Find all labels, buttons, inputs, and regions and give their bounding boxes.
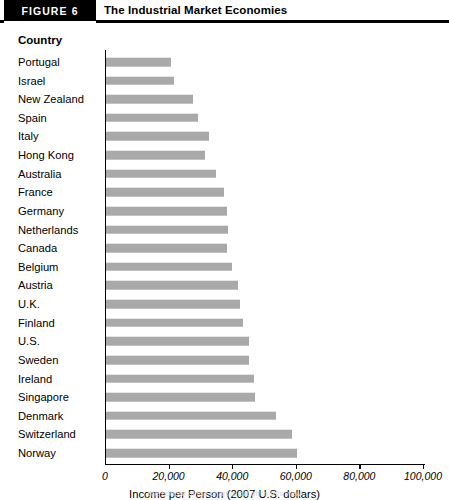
category-label: Hong Kong — [18, 149, 74, 161]
bar — [106, 411, 276, 420]
bar — [106, 132, 209, 141]
figure-header: FIGURE 6 The Industrial Market Economies — [0, 0, 449, 20]
figure-title: The Industrial Market Economies — [104, 1, 287, 19]
x-axis-tick — [232, 464, 233, 469]
category-label: Ireland — [18, 373, 52, 385]
x-axis-tick — [296, 464, 297, 469]
category-label: U.K. — [18, 298, 40, 310]
bar — [106, 169, 216, 178]
category-label: Germany — [18, 205, 64, 217]
category-label: Australia — [18, 168, 62, 180]
bar — [106, 300, 240, 309]
bar — [106, 225, 228, 234]
x-axis-tick-label: 20,000 — [153, 470, 185, 482]
figure-chart: Country 020,00040,00060,00080,000100,000… — [0, 23, 449, 498]
bar — [106, 374, 254, 383]
category-label: Sweden — [18, 354, 58, 366]
category-label: New Zealand — [18, 93, 84, 105]
bar — [106, 207, 227, 216]
category-label: Denmark — [18, 410, 63, 422]
bar — [106, 244, 227, 253]
y-axis-line — [105, 50, 106, 464]
figure-number-tab: FIGURE 6 — [4, 0, 96, 19]
header-tab-underline — [4, 19, 96, 21]
category-label: Switzerland — [18, 428, 76, 440]
x-axis-tick-label: 40,000 — [216, 470, 248, 482]
bar — [106, 151, 205, 160]
bar — [106, 188, 224, 197]
x-axis-tick — [423, 464, 424, 469]
x-axis-tick-label: 80,000 — [343, 470, 375, 482]
category-label: Finland — [18, 317, 55, 329]
x-axis-tick — [359, 464, 360, 469]
bar — [106, 58, 171, 67]
bar — [106, 337, 249, 346]
category-label: Israel — [18, 75, 45, 87]
category-label: Portugal — [18, 56, 60, 68]
category-label: Netherlands — [18, 224, 78, 236]
category-label: Singapore — [18, 391, 69, 403]
bar — [106, 393, 255, 402]
bar — [106, 318, 243, 327]
bar — [106, 95, 193, 104]
bar — [106, 76, 174, 85]
bar — [106, 356, 249, 365]
category-label: France — [18, 186, 53, 198]
x-axis-tick-label: 100,000 — [404, 470, 442, 482]
category-label: Belgium — [18, 261, 58, 273]
category-label: Norway — [18, 447, 56, 459]
x-axis-tick — [169, 464, 170, 469]
category-label: Italy — [18, 130, 39, 142]
bar — [106, 281, 238, 290]
bar — [106, 430, 292, 439]
bar — [106, 263, 232, 272]
category-label: Spain — [18, 112, 47, 124]
category-label: Austria — [18, 279, 53, 291]
cut-off-footnote: the bottom of the chart is cut off in th… — [0, 489, 449, 498]
x-axis-line — [105, 464, 425, 465]
category-label: U.S. — [18, 335, 40, 347]
x-axis-tick-label: 0 — [102, 470, 108, 482]
x-axis-tick-label: 60,000 — [280, 470, 312, 482]
category-label: Canada — [18, 242, 57, 254]
bar — [106, 449, 297, 458]
bar — [106, 114, 198, 123]
